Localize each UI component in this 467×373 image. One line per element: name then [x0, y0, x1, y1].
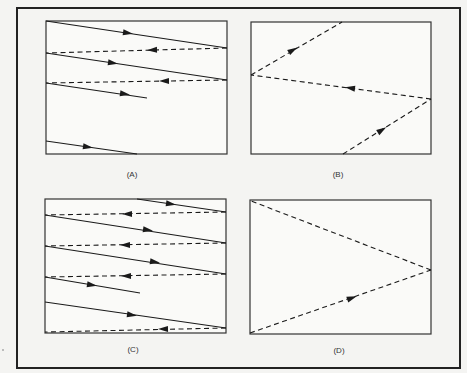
panel-label: (B) [333, 170, 344, 179]
panel-label: (A) [127, 170, 138, 179]
panel-b: (B) [251, 22, 431, 179]
diagram-figure: (A)(B)(C)(D) [0, 0, 467, 373]
panel-c: (C) [45, 199, 226, 354]
panel-label: (C) [127, 345, 138, 354]
panel-label: (D) [333, 346, 344, 355]
panel-a: (A) [46, 21, 227, 179]
speck-mark [2, 349, 4, 351]
panel-frame [250, 200, 431, 334]
panels-group: (A)(B)(C)(D) [45, 21, 431, 355]
panel-frame [251, 22, 431, 154]
panel-d: (D) [250, 200, 431, 355]
